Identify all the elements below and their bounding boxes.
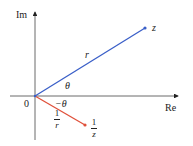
origin-label: 0 <box>24 99 29 109</box>
theta-label: θ <box>65 81 70 91</box>
z-point <box>143 26 146 29</box>
one-over-z-label: 1 z <box>91 118 97 139</box>
im-axis-label: Im <box>16 10 27 20</box>
one-over-r-denominator: r <box>55 121 59 130</box>
r-label: r <box>85 50 89 60</box>
re-axis-label: Re <box>165 103 176 113</box>
one-over-z-denominator: z <box>92 130 96 139</box>
one-over-z-numerator: 1 <box>92 118 97 127</box>
origin-point <box>34 95 36 97</box>
one-over-r-label: 1 r <box>54 109 60 130</box>
z-label: z <box>152 23 156 33</box>
reciprocal-point <box>83 123 86 126</box>
z-vector <box>35 28 145 96</box>
one-over-r-numerator: 1 <box>55 109 60 118</box>
